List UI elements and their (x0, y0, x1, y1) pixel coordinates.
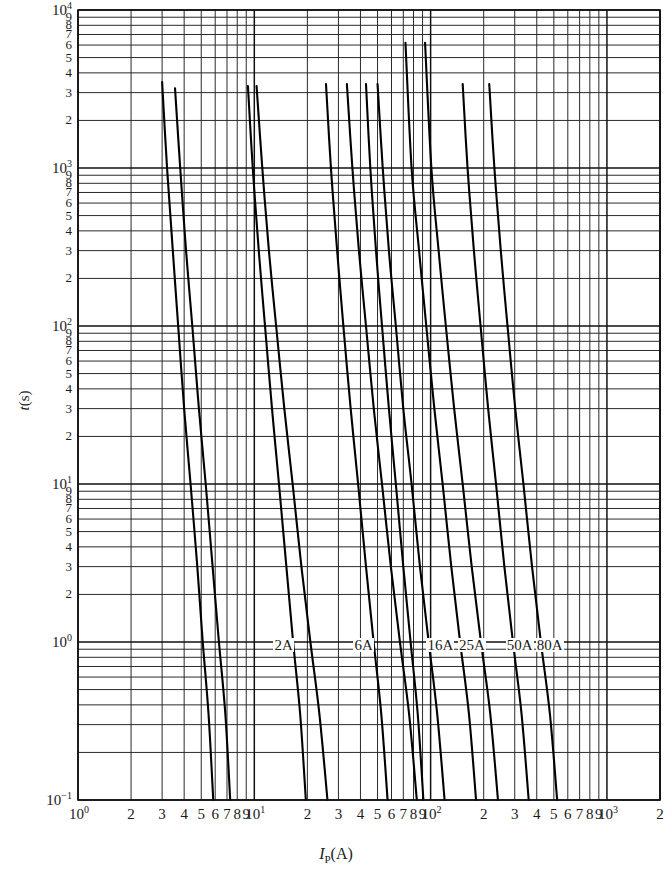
curve-rating-label: 6A (353, 638, 373, 652)
y-minor-label: 4 (40, 65, 72, 81)
y-minor-label: 9 (40, 483, 72, 499)
fuse-curve (366, 84, 423, 800)
y-minor-label: 3 (40, 559, 72, 575)
fuse-curve (378, 84, 445, 800)
y-axis-title: t(s) (16, 371, 33, 431)
curve-rating-label: 50A (506, 638, 534, 652)
x-minor-label: 9 (590, 806, 608, 823)
x-minor-label: 2 (298, 806, 316, 823)
x-minor-label: 4 (351, 806, 369, 823)
y-minor-label: 3 (40, 85, 72, 101)
curve-group (162, 43, 557, 800)
fuse-time-current-chart (0, 0, 672, 878)
x-decade-label: 100 (59, 804, 99, 823)
y-minor-label: 3 (40, 401, 72, 417)
curve-rating-label: 80A (536, 638, 564, 652)
y-minor-label: 4 (40, 381, 72, 397)
y-minor-label: 2 (40, 428, 72, 444)
fuse-curve (248, 86, 306, 800)
fuse-curve (489, 84, 557, 800)
x-minor-label: 3 (506, 806, 524, 823)
x-minor-label: 9 (414, 806, 432, 823)
y-minor-label: 2 (40, 112, 72, 128)
curve-rating-label: 25A (458, 638, 486, 652)
y-minor-label: 9 (40, 167, 72, 183)
curve-rating-label: 2A (273, 638, 293, 652)
x-minor-label: 3 (153, 806, 171, 823)
y-minor-label: 4 (40, 539, 72, 555)
fuse-curve (175, 88, 230, 800)
y-minor-label: 9 (40, 325, 72, 341)
x-minor-label: 2 (651, 806, 669, 823)
x-minor-label: 4 (528, 806, 546, 823)
y-minor-label: 2 (40, 586, 72, 602)
fuse-curve (257, 86, 328, 800)
x-minor-label: 9 (237, 806, 255, 823)
x-axis-title: IP(A) (0, 845, 672, 865)
y-minor-label: 9 (40, 9, 72, 25)
y-minor-label: 2 (40, 270, 72, 286)
curve-rating-label: 16A (426, 638, 454, 652)
x-minor-label: 2 (475, 806, 493, 823)
y-minor-label: 4 (40, 223, 72, 239)
y-decade-label: 100 (14, 632, 72, 651)
x-minor-label: 4 (175, 806, 193, 823)
x-minor-label: 3 (329, 806, 347, 823)
fuse-curve (162, 82, 213, 800)
y-minor-label: 3 (40, 243, 72, 259)
x-minor-label: 2 (122, 806, 140, 823)
